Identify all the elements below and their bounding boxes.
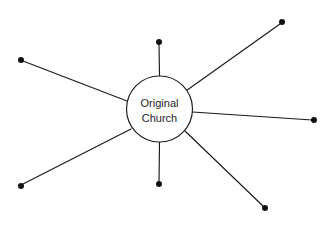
hub-and-spoke-diagram: Original Church: [0, 0, 333, 227]
spoke-line-bottom: [159, 142, 160, 183]
spoke-endpoint-upper-right[interactable]: [279, 19, 285, 25]
spoke-line-top: [159, 43, 160, 76]
spoke-line-right: [193, 112, 313, 120]
spoke-endpoint-lower-right[interactable]: [262, 205, 268, 211]
hub-label-line2: Church: [142, 112, 177, 124]
spoke-line-upper-left: [23, 61, 127, 101]
spoke-line-lower-right: [185, 131, 263, 206]
hub-label-line1: Original: [141, 97, 179, 109]
hub-circle[interactable]: [127, 76, 193, 142]
hub-node[interactable]: Original Church: [127, 76, 193, 142]
spoke-line-lower-left: [23, 129, 131, 184]
spoke-endpoint-bottom[interactable]: [156, 181, 162, 187]
spoke-endpoint-upper-left[interactable]: [18, 57, 24, 63]
spoke-endpoint-right[interactable]: [311, 117, 317, 123]
diagram-canvas: Original Church: [0, 0, 333, 227]
spoke-line-upper-right: [187, 24, 281, 91]
spoke-endpoint-top[interactable]: [156, 39, 162, 45]
spoke-endpoint-lower-left[interactable]: [18, 183, 24, 189]
